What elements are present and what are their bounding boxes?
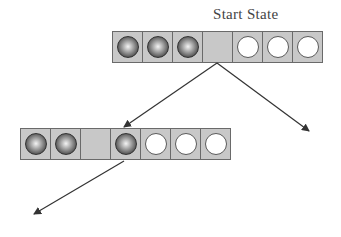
arrow bbox=[124, 63, 217, 127]
arrow bbox=[34, 161, 124, 214]
transition-arrows bbox=[0, 0, 341, 237]
arrow bbox=[217, 63, 309, 131]
